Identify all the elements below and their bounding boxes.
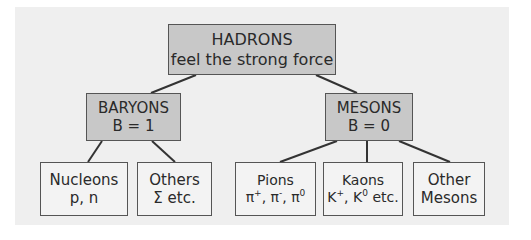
- node-title: HADRONS: [211, 30, 292, 49]
- node-title: Others: [149, 171, 199, 189]
- node-particles: K+, K0 etc.: [327, 189, 398, 206]
- link-baryons-nucleons: [88, 141, 102, 162]
- link-baryons-others: [152, 141, 175, 162]
- node-title: Pions: [257, 172, 294, 189]
- node-nucleons: Nucleons p, n: [40, 162, 128, 216]
- link-hadrons-mesons: [316, 75, 357, 93]
- node-kaons: Kaons K+, K0 etc.: [323, 162, 403, 216]
- node-other-mesons: Other Mesons: [413, 162, 485, 216]
- node-title: MESONS: [337, 99, 402, 117]
- node-mesons: MESONS B = 0: [325, 93, 413, 141]
- particle-pi-minus: π-: [271, 189, 283, 205]
- node-title: Other: [428, 171, 471, 189]
- node-subtitle: Σ etc.: [153, 189, 195, 207]
- node-subtitle: Mesons: [421, 189, 477, 207]
- link-mesons-pions: [280, 141, 337, 162]
- link-mesons-other: [399, 141, 450, 162]
- node-particles: π+, π-, π0: [246, 189, 306, 206]
- particle-k-plus: K+: [327, 189, 344, 205]
- particle-pi-zero: π0: [291, 189, 305, 205]
- node-subtitle: B = 0: [348, 117, 390, 135]
- node-hadrons: HADRONS feel the strong force: [168, 24, 336, 75]
- node-subtitle: B = 1: [113, 117, 155, 135]
- link-hadrons-baryons: [151, 75, 196, 93]
- node-subtitle: feel the strong force: [171, 50, 334, 69]
- node-title: Nucleons: [50, 171, 119, 189]
- particle-pi-plus: π+: [246, 189, 262, 205]
- node-subtitle: p, n: [70, 189, 99, 207]
- node-pions: Pions π+, π-, π0: [235, 162, 316, 216]
- node-title: BARYONS: [98, 99, 169, 117]
- node-others: Others Σ etc.: [137, 162, 212, 216]
- node-title: Kaons: [342, 172, 384, 189]
- particle-k-zero: K0: [353, 189, 368, 205]
- node-baryons: BARYONS B = 1: [86, 93, 181, 141]
